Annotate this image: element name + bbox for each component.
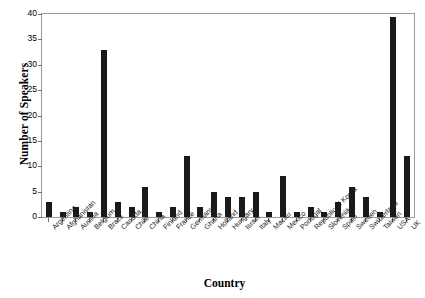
x-axis-tick-mark	[48, 218, 49, 222]
y-axis-tick-label: 10	[28, 160, 37, 171]
bars-container	[42, 14, 414, 217]
y-axis-tick-label: 5	[32, 186, 37, 197]
y-axis-tick-label: 0	[32, 211, 37, 222]
y-axis-tick-label: 25	[28, 84, 37, 95]
bar	[184, 156, 190, 217]
bar	[101, 50, 107, 217]
bar	[142, 187, 148, 217]
y-axis-tick-label: 15	[28, 135, 37, 146]
bar	[390, 17, 396, 217]
y-axis-tick-label: 35	[28, 33, 37, 44]
y-axis-tick-label: 40	[28, 8, 37, 19]
x-axis-title: Country	[0, 277, 425, 289]
bar	[46, 202, 52, 217]
x-axis-tick-labels: ArgentinaAfghanistanAustriaBelgiumBrazil…	[41, 223, 415, 277]
bar	[404, 156, 410, 217]
y-axis-tick-label: 20	[28, 110, 37, 121]
plot-frame: 0510152025303540	[41, 13, 415, 218]
y-axis-tick-label: 30	[28, 59, 37, 70]
bar-chart: Number of Speakers 0510152025303540 Arge…	[0, 0, 425, 298]
plot-area: 0510152025303540	[42, 14, 414, 217]
